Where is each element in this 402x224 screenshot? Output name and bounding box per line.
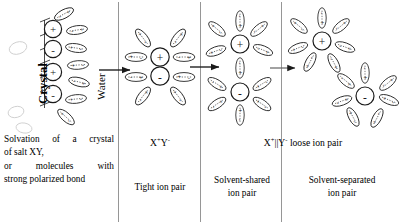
ion-charge-label: + — [50, 23, 56, 35]
ion-charge-label: - — [51, 89, 55, 101]
dipole-end-negative: - — [140, 54, 142, 61]
dipole-end-negative: - — [237, 15, 244, 17]
formula-cation: X — [264, 137, 271, 148]
caption-line: Solvent-separated — [284, 174, 400, 187]
separated-anion-cluster: - - + - + - + + — [331, 63, 400, 129]
dipole-end-positive: + — [237, 71, 244, 75]
dipole-end-positive: + — [177, 73, 181, 80]
separated-cation-cluster: + - + + - - + + — [287, 8, 356, 74]
dipole-end-positive: + — [237, 109, 244, 113]
water-label: Water — [95, 73, 107, 100]
dipole-end-negative: - — [178, 53, 180, 60]
dipole-end-positive: + — [362, 76, 369, 80]
caption-line: Solvation of a crystal — [4, 133, 114, 146]
ion-charge-label: + — [237, 39, 244, 51]
dipole-end-negative: - — [319, 12, 326, 14]
formula-anion: Y — [161, 137, 168, 148]
loose-ion-pair-formula: X+||Y- loose ion pair — [205, 137, 401, 148]
shared-anion-cluster: - + - + - - + - — [206, 75, 273, 125]
ion-charge-label: - — [158, 71, 162, 83]
crystal-caption: Solvation of a crystal of salt XY, or mo… — [4, 133, 114, 187]
tight-ion-pair-formula: X+Y- — [124, 137, 196, 148]
formula-anion-charge: - — [168, 136, 170, 143]
ion-charge-label: - — [51, 44, 55, 56]
caption-line: Solvent-shared — [203, 174, 281, 187]
crystal-ion-anion: - — [44, 40, 61, 57]
ion-charge-label: - — [363, 91, 367, 103]
dipole-end-negative: - — [237, 119, 244, 121]
dipole-end-positive: + — [129, 53, 133, 60]
tight-ion-pair-caption: Tight ion pair — [122, 181, 198, 194]
panel-tight-ion-pair-diagram: + - + - - + — [125, 27, 195, 108]
ion-charge-label: + — [157, 52, 164, 64]
caption-line: of salt XY, — [4, 146, 114, 159]
panel-solvent-shared-diagram: + - + + - - + + — [205, 11, 274, 126]
dipole-end-negative: - — [237, 62, 244, 64]
tight-pair-anion: - — [151, 67, 169, 85]
tight-pair-cation: + — [151, 48, 169, 66]
dipole-end-negative: - — [362, 67, 369, 69]
caption-line: ion pair — [284, 187, 400, 200]
crystal-ghost-outline — [7, 40, 33, 135]
ion-charge-label: - — [238, 87, 242, 99]
panel-solvent-separated-diagram: + - + + - - + + — [287, 8, 400, 129]
shared-solvent-dipole: - + — [236, 58, 244, 79]
caption-line: strong polarized bond — [4, 173, 114, 186]
figure-canvas: + - + - - — [0, 0, 402, 224]
dipole-end-positive: + — [237, 24, 244, 28]
dipole-end-positive: + — [187, 54, 191, 61]
shared-cation-cluster: + - + + - - + + — [205, 11, 274, 79]
ion-charge-label: + — [319, 36, 326, 48]
dipole-end-negative: - — [188, 74, 190, 81]
formula-trailing-text: loose ion pair — [288, 137, 343, 148]
dipole-end-negative: - — [130, 73, 132, 80]
dipole-end-positive: + — [139, 74, 143, 81]
caption-line: ion pair — [203, 187, 281, 200]
crystal-label: Crystal — [36, 63, 51, 104]
caption-line: or molecules with — [4, 160, 114, 173]
crystal-ion-cation: + — [44, 20, 61, 37]
dipole-end-positive: + — [319, 21, 326, 25]
formula-cation: X — [150, 137, 157, 148]
solvent-shared-caption: Solvent-shared ion pair — [203, 174, 281, 200]
solvent-separated-caption: Solvent-separated ion pair — [284, 174, 400, 200]
